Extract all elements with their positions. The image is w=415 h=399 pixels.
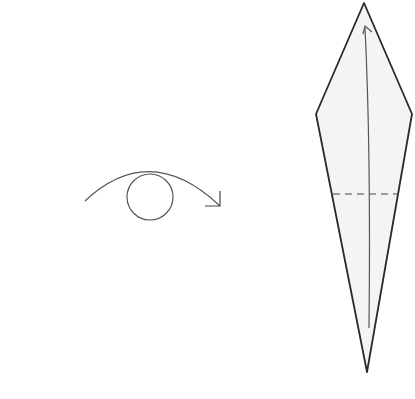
turn-over-arc-arrow xyxy=(85,172,220,206)
kite-outline xyxy=(316,3,412,372)
origami-diagram xyxy=(0,0,415,399)
turn-over-circle xyxy=(127,174,173,220)
kite-shape xyxy=(316,3,412,372)
turn-over-symbol xyxy=(85,172,220,220)
